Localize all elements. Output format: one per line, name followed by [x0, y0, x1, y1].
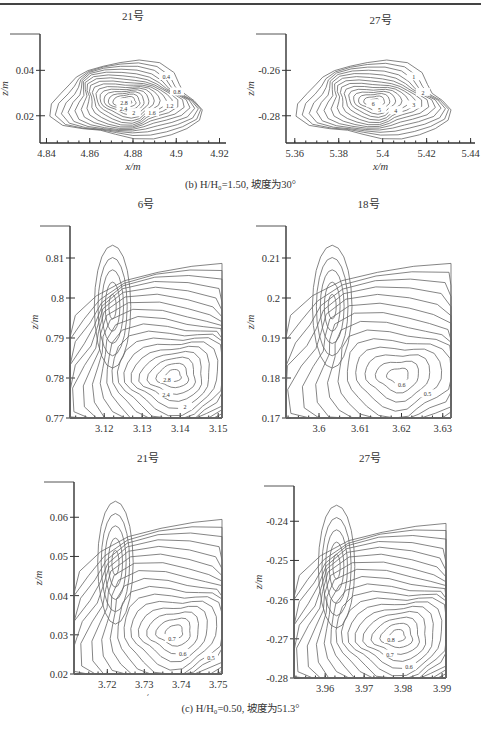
y-tick-label: 0.18: [262, 373, 280, 384]
contour-value-label: 6: [372, 101, 375, 107]
contour-plot-c-21: 21号3.723.733.743.750.020.030.040.050.06x…: [0, 448, 240, 696]
contour-plot-c-27: 27号3.963.973.983.99-0.28-0.27-0.26-0.25-…: [240, 448, 481, 696]
y-tick-label: 0.77: [46, 413, 64, 424]
y-axis-label: z/m: [245, 81, 256, 97]
y-axis-label: z/m: [33, 570, 44, 586]
x-tick-label: 3.12: [95, 423, 113, 434]
contour-value-label: 5: [378, 107, 381, 113]
x-tick-label: 3.74: [172, 679, 191, 690]
caption-c: (c) H/H₀=0.50, 坡度为51.3°: [0, 700, 481, 715]
plot-title: 27号: [370, 14, 392, 26]
x-tick-label: 3.98: [394, 683, 412, 694]
top-rule: [0, 3, 481, 5]
plot-title: 27号: [359, 452, 381, 464]
contour-plot-c-18: 18号3.63.613.623.630.170.180.190.20.21x/m…: [240, 196, 481, 436]
contour-value-label: 0.8: [173, 89, 181, 95]
contour-value-label: 3: [412, 102, 415, 108]
contour-value-label: 2.8: [163, 377, 171, 383]
y-tick-label: -0.24: [266, 516, 289, 527]
contour-plot-c-6: 6号3.123.133.143.150.770.780.790.80.81x/m…: [0, 196, 240, 436]
x-tick-label: 5.38: [330, 148, 348, 159]
x-tick-label: 3.73: [135, 679, 153, 690]
plot-title: 18号: [358, 198, 380, 210]
y-tick-label: 0.79: [46, 333, 64, 344]
y-axis-label: z/m: [0, 81, 10, 97]
plot-title: 21号: [137, 452, 159, 464]
contour-svg: 18号3.63.613.623.630.170.180.190.20.21x/m…: [240, 196, 481, 436]
contour-lines: [74, 501, 222, 674]
contour-value-label: 1.2: [166, 103, 174, 109]
contour-value-label: 4: [394, 108, 397, 114]
contour-svg: 27号3.963.973.983.99-0.28-0.27-0.26-0.25-…: [240, 448, 481, 696]
x-axis-label: x/m: [139, 692, 156, 696]
x-axis-label: x/m: [124, 161, 141, 172]
contour-value-label: 0.7: [168, 636, 176, 642]
contour-plot-b-21: 21号4.844.864.884.94.920.020.04x/mz/m0.40…: [0, 8, 240, 178]
y-axis-label: z/m: [253, 574, 264, 590]
y-tick-label: 0.81: [46, 253, 64, 264]
y-tick-label: -0.26: [258, 65, 280, 76]
contour-svg: 21号4.844.864.884.94.920.020.04x/mz/m0.40…: [0, 8, 240, 178]
x-tick-label: 3.75: [209, 679, 227, 690]
y-tick-label: 0.8: [51, 293, 64, 304]
x-tick-label: 4.92: [210, 148, 228, 159]
x-tick-label: 3.14: [171, 423, 190, 434]
x-tick-label: 4.86: [81, 148, 99, 159]
x-tick-label: 3.15: [209, 423, 227, 434]
y-tick-label: 0.02: [50, 669, 68, 680]
contour-lines: [70, 245, 222, 418]
x-tick-label: 3.62: [392, 423, 410, 434]
x-tick-label: 3.63: [434, 423, 452, 434]
caption-b: (b) H/H₀=1.50, 坡度为30°: [0, 176, 481, 191]
y-tick-label: 0.02: [16, 111, 34, 122]
y-tick-label: -0.27: [266, 634, 288, 645]
y-tick-label: 0.21: [262, 253, 280, 264]
y-tick-label: 0.17: [262, 413, 280, 424]
y-tick-label: 0.04: [16, 65, 35, 76]
contour-value-label: 0.5: [207, 655, 215, 661]
contour-value-label: 1.6: [148, 110, 156, 116]
contour-value-label: 0.6: [179, 651, 187, 657]
y-axis-label: z/m: [245, 314, 256, 330]
y-axis-label: z/m: [29, 314, 40, 330]
x-tick-label: 4.88: [124, 148, 142, 159]
contour-plot-b-27: 27号5.365.385.45.425.44-0.26-0.28x/mz/m12…: [240, 8, 481, 178]
y-tick-label: 0.19: [262, 333, 280, 344]
y-tick-label: -0.28: [266, 673, 288, 684]
y-tick-label: 0.78: [46, 373, 64, 384]
contour-value-label: 2: [421, 90, 424, 96]
plot-title: 21号: [122, 10, 144, 22]
x-axis-label: x/m: [372, 161, 389, 172]
y-tick-label: 0.03: [50, 630, 68, 641]
x-tick-label: 3.97: [355, 683, 373, 694]
y-tick-label: -0.25: [266, 555, 288, 566]
contour-lines: [294, 505, 446, 678]
contour-value-label: 0.8: [387, 637, 395, 643]
plot-title: 6号: [138, 198, 155, 210]
x-tick-label: 5.4: [376, 148, 390, 159]
contour-value-label: 2.8: [120, 100, 128, 106]
x-tick-label: 5.44: [461, 148, 480, 159]
contour-svg: 21号3.723.733.743.750.020.030.040.050.06x…: [0, 448, 240, 696]
x-tick-label: 4.84: [37, 148, 56, 159]
y-tick-label: 0.05: [50, 551, 68, 562]
y-tick-label: 0.06: [50, 512, 68, 523]
contour-value-label: 2: [132, 110, 135, 116]
x-tick-label: 5.42: [417, 148, 435, 159]
x-tick-label: 3.6: [312, 423, 325, 434]
x-tick-label: 3.61: [351, 423, 369, 434]
x-tick-label: 3.13: [133, 423, 151, 434]
contour-value-label: 0.7: [386, 652, 394, 658]
contour-value-label: 0.6: [405, 664, 413, 670]
contour-value-label: 1: [412, 74, 415, 80]
contour-value-label: 2: [184, 404, 187, 410]
y-tick-label: -0.28: [258, 111, 280, 122]
y-tick-label: -0.26: [266, 595, 288, 606]
y-tick-label: 0.04: [50, 591, 69, 602]
x-tick-label: 3.96: [316, 683, 334, 694]
contour-value-label: 2.4: [120, 106, 128, 112]
x-tick-label: 5.36: [286, 148, 304, 159]
contour-svg: 27号5.365.385.45.425.44-0.26-0.28x/mz/m12…: [240, 8, 481, 178]
x-tick-label: 4.9: [170, 148, 183, 159]
contour-value-label: 2.4: [162, 392, 170, 398]
